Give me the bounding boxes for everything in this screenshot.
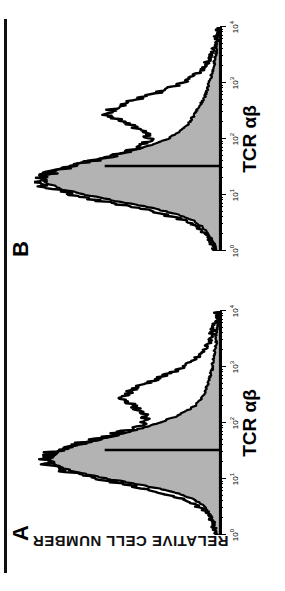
axis-minor-tick [220, 143, 223, 144]
axis-tick [220, 422, 226, 423]
shaded-histogram-trace [47, 311, 220, 535]
axis-minor-tick [220, 444, 223, 445]
panel-a: A 100101102103104 TCR αβ [8, 305, 276, 545]
axis-minor-tick [220, 451, 223, 452]
axis-minor-tick [220, 500, 223, 501]
axis-minor-tick [220, 487, 223, 488]
axis-minor-tick [220, 483, 223, 484]
axis-minor-tick [220, 94, 223, 95]
axis-minor-tick [220, 369, 223, 370]
axis-minor-tick [220, 29, 223, 30]
axis-minor-tick [220, 434, 223, 435]
panel-b: B 100101102103104 TCR αβ [8, 21, 276, 261]
axis-minor-tick [220, 431, 223, 432]
flow-cytometry-figure: RELATIVE CELL NUMBER A 100101102103104 T… [0, 0, 285, 591]
axis-minor-tick [220, 349, 223, 350]
axis-minor-tick [220, 319, 223, 320]
axis-minor-tick [220, 216, 223, 217]
panel-b-x-axis-title: TCR αβ [239, 27, 261, 251]
axis-minor-tick [220, 481, 223, 482]
axis-minor-tick [220, 43, 223, 44]
figure-top-rule [4, 19, 7, 573]
axis-minor-tick [220, 378, 223, 379]
axis-minor-tick [220, 150, 223, 151]
axis-minor-tick [220, 31, 223, 32]
axis-minor-tick [220, 211, 223, 212]
axis-minor-tick [220, 203, 223, 204]
axis-tick [220, 366, 226, 367]
axis-minor-tick [220, 339, 223, 340]
axis-minor-tick [220, 99, 223, 100]
axis-minor-tick [220, 35, 223, 36]
axis-minor-tick [220, 55, 223, 56]
axis-minor-tick [220, 327, 223, 328]
axis-minor-tick [220, 315, 223, 316]
axis-tick [220, 138, 226, 139]
panel-b-axis-line [220, 27, 222, 251]
axis-tick [220, 26, 226, 27]
axis-minor-tick [220, 155, 223, 156]
axis-minor-tick [220, 388, 223, 389]
panel-a-x-axis: 100101102103104 [220, 311, 221, 535]
axis-minor-tick [220, 87, 223, 88]
axis-minor-tick [220, 38, 223, 39]
axis-minor-tick [220, 427, 223, 428]
axis-minor-tick [220, 91, 223, 92]
axis-minor-tick [220, 371, 223, 372]
axis-minor-tick [220, 490, 223, 491]
histogram-b [34, 27, 220, 251]
panel-b-plot [34, 27, 220, 251]
axis-minor-tick [220, 383, 223, 384]
axis-tick [220, 478, 226, 479]
axis-minor-tick [220, 507, 223, 508]
axis-minor-tick [220, 206, 223, 207]
axis-minor-tick [220, 111, 223, 112]
axis-minor-tick [220, 177, 223, 178]
axis-minor-tick [220, 461, 223, 462]
axis-minor-tick [220, 425, 223, 426]
axis-minor-tick [220, 495, 223, 496]
axis-minor-tick [220, 395, 223, 396]
figure-page: RELATIVE CELL NUMBER A 100101102103104 T… [0, 0, 285, 591]
axis-tick [220, 534, 226, 535]
axis-tick [220, 194, 226, 195]
axis-tick [220, 250, 226, 251]
panel-a-axis-line [220, 311, 222, 535]
panel-a-x-axis-title: TCR αβ [239, 311, 261, 535]
axis-minor-tick [220, 160, 223, 161]
axis-minor-tick [220, 199, 223, 200]
panel-b-x-axis: 100101102103104 [220, 27, 221, 251]
axis-minor-tick [220, 141, 223, 142]
histogram-a [34, 311, 220, 535]
axis-minor-tick [220, 104, 223, 105]
axis-minor-tick [220, 322, 223, 323]
panel-a-letter: A [8, 525, 34, 541]
axis-minor-tick [220, 167, 223, 168]
axis-minor-tick [220, 85, 223, 86]
axis-minor-tick [220, 332, 223, 333]
axis-minor-tick [220, 65, 223, 66]
axis-minor-tick [220, 517, 223, 518]
panel-b-letter: B [8, 241, 34, 257]
shaded-histogram-trace [42, 27, 220, 251]
axis-minor-tick [220, 223, 223, 224]
axis-minor-tick [220, 313, 223, 314]
axis-minor-tick [220, 375, 223, 376]
axis-tick [220, 310, 226, 311]
axis-minor-tick [220, 233, 223, 234]
axis-minor-tick [220, 405, 223, 406]
panel-a-plot [34, 311, 220, 535]
axis-minor-tick [220, 147, 223, 148]
axis-minor-tick [220, 121, 223, 122]
axis-minor-tick [220, 197, 223, 198]
axis-tick [220, 82, 226, 83]
axis-minor-tick [220, 48, 223, 49]
axis-minor-tick [220, 439, 223, 440]
